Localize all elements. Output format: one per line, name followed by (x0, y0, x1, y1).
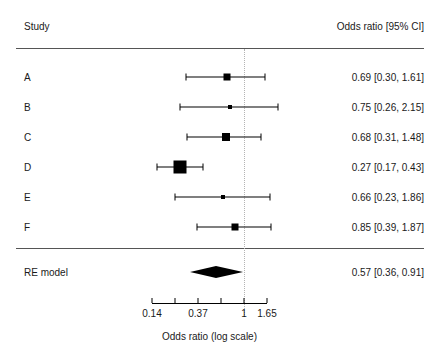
point-estimate-marker (232, 224, 239, 231)
x-axis-tick (175, 298, 176, 303)
point-estimate-marker (174, 161, 187, 174)
x-axis-tick (221, 298, 222, 303)
study-row-label: D (24, 162, 31, 173)
summary-row-estimate: 0.57 [0.36, 0.91] (352, 267, 424, 278)
study-row-label: A (24, 72, 31, 83)
forest-plot: Study Odds ratio [95% CI] A0.69 [0.30, 1… (0, 0, 439, 359)
header-divider (16, 48, 424, 49)
x-axis-tick (198, 298, 199, 303)
x-axis-title: Odds ratio (log scale) (162, 331, 257, 342)
ci-lower-cap (175, 194, 176, 201)
study-row-estimate: 0.66 [0.23, 1.86] (352, 192, 424, 203)
ci-upper-cap (203, 164, 204, 171)
study-row-estimate: 0.85 [0.39, 1.87] (352, 222, 424, 233)
point-estimate-marker (222, 133, 230, 141)
study-row-label: C (24, 132, 31, 143)
ci-upper-cap (261, 134, 262, 141)
ci-upper-cap (270, 194, 271, 201)
x-axis-tick (244, 298, 245, 303)
point-estimate-marker (221, 195, 225, 199)
x-axis-tick (152, 298, 153, 303)
x-axis-tick (267, 298, 268, 303)
ci-lower-cap (157, 164, 158, 171)
ci-lower-cap (180, 104, 181, 111)
point-estimate-marker (228, 105, 232, 109)
study-row-estimate: 0.68 [0.31, 1.48] (352, 132, 424, 143)
x-axis-tick-label: 0.14 (142, 308, 161, 319)
x-axis-tick-label: 1.65 (257, 308, 276, 319)
ci-lower-cap (197, 224, 198, 231)
x-axis-line (152, 303, 267, 304)
study-row-estimate: 0.75 [0.26, 2.15] (352, 102, 424, 113)
study-row-label: B (24, 102, 31, 113)
study-row-label: E (24, 192, 31, 203)
ci-upper-cap (271, 224, 272, 231)
column-header-study: Study (24, 21, 50, 32)
x-axis-tick-label: 1 (241, 308, 247, 319)
ci-upper-cap (265, 74, 266, 81)
study-row-label: F (24, 222, 30, 233)
reference-line (244, 49, 246, 317)
summary-diamond-marker (190, 266, 243, 278)
ci-lower-cap (186, 74, 187, 81)
x-axis-tick-label: 0.37 (188, 308, 207, 319)
ci-upper-cap (278, 104, 279, 111)
point-estimate-marker (224, 74, 231, 81)
column-header-estimate: Odds ratio [95% CI] (337, 21, 424, 32)
ci-lower-cap (187, 134, 188, 141)
summary-divider (16, 248, 424, 249)
study-row-estimate: 0.27 [0.17, 0.43] (352, 162, 424, 173)
study-row-estimate: 0.69 [0.30, 1.61] (352, 72, 424, 83)
summary-row-label: RE model (24, 267, 68, 278)
